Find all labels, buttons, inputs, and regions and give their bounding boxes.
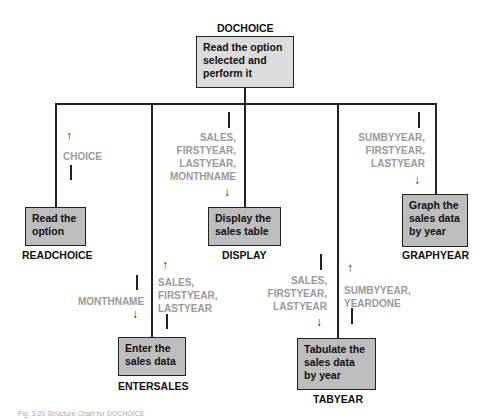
flow-param: LASTYEAR, [168, 157, 236, 170]
bus-line [55, 103, 436, 105]
down-arrow-icon: ↓ [132, 308, 138, 320]
module-name-graphyear: GRAPHYEAR [402, 249, 469, 261]
flow-param: MONTHNAME [168, 170, 236, 183]
flow-tail [418, 112, 420, 128]
module-box-display: Display the sales table [208, 207, 281, 246]
root-connector [244, 87, 246, 104]
module-box-tabyear: Tabulate the sales data by year [297, 338, 376, 390]
flow-param-list: SALES, FIRSTYEAR, LASTYEAR [265, 274, 327, 313]
flow-tail [70, 165, 72, 180]
flow-tail [351, 308, 353, 324]
flow-tail [228, 112, 230, 128]
module-box-entersales: Enter the sales data [118, 337, 186, 376]
flow-param: YEARDONE [344, 297, 411, 310]
flow-param-list: SUMBYYEAR, FIRSTYEAR, LASTYEAR [345, 131, 425, 170]
flow-param-list: SALES, FIRSTYEAR, LASTYEAR [158, 276, 217, 315]
down-arrow-icon: ↓ [316, 316, 322, 328]
connector-entersales [151, 103, 153, 337]
flow-param: FIRSTYEAR, [345, 144, 425, 157]
flow-param: SALES, [265, 274, 327, 287]
module-box-graphyear: Graph the sales data by year [402, 194, 468, 247]
module-box-readchoice: Read the option [25, 207, 86, 246]
module-name-readchoice: READCHOICE [22, 249, 93, 261]
root-module-name: DOCHOICE [217, 22, 274, 34]
flow-tail [320, 254, 322, 270]
up-arrow-icon: ↑ [66, 130, 72, 142]
flow-param: SUMBYYEAR, [345, 131, 425, 144]
flow-param: FIRSTYEAR, [168, 144, 236, 157]
module-name-display: DISPLAY [222, 249, 267, 261]
down-arrow-icon: ↓ [224, 186, 230, 198]
flow-param: LASTYEAR [265, 300, 327, 313]
flow-param: LASTYEAR [345, 157, 425, 170]
flow-param: FIRSTYEAR, [158, 289, 217, 302]
flow-param: FIRSTYEAR, [265, 287, 327, 300]
flow-param: SALES, [168, 131, 236, 144]
connector-readchoice [55, 103, 57, 207]
module-name-entersales: ENTERSALES [118, 380, 189, 392]
down-arrow-icon: ↓ [414, 174, 420, 186]
up-arrow-icon: ↑ [162, 259, 168, 271]
connector-tabyear [337, 103, 339, 338]
connector-graphyear [435, 103, 437, 194]
flow-param: SALES, [158, 276, 217, 289]
flow-param: SUMBYYEAR, [344, 284, 411, 297]
root-module-box: Read the option selected and perform it [196, 36, 294, 88]
flow-tail [166, 314, 168, 329]
flow-param: CHOICE [63, 150, 102, 163]
flow-tail [136, 275, 138, 290]
figure-caption: Fig. 3.20 Structure Chart for DOCHOICE [18, 410, 144, 417]
module-name-tabyear: TABYEAR [313, 393, 363, 405]
flow-param-list: SUMBYYEAR, YEARDONE [344, 284, 411, 310]
flow-param-list: SALES, FIRSTYEAR, LASTYEAR, MONTHNAME [168, 131, 236, 183]
up-arrow-icon: ↑ [347, 262, 353, 274]
connector-display [244, 103, 246, 207]
